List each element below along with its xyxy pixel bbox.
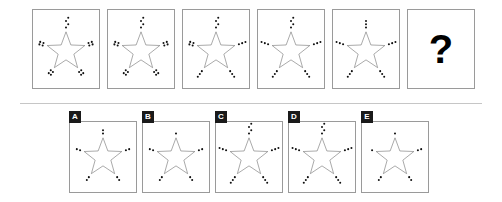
dot — [114, 41, 116, 43]
dot-cluster-upper-right — [198, 148, 203, 151]
dot — [307, 176, 309, 178]
dot — [91, 41, 93, 43]
dot — [116, 176, 118, 178]
dot-cluster-upper-right — [344, 147, 353, 151]
dot — [140, 27, 142, 29]
dot — [198, 149, 200, 151]
dot — [229, 70, 231, 72]
dot-cluster-lower-right — [116, 176, 120, 181]
dot — [261, 41, 263, 43]
dot — [335, 176, 337, 178]
dot-cluster-upper-left — [38, 41, 44, 47]
dot — [264, 179, 266, 181]
dot — [371, 149, 373, 151]
dot — [88, 176, 90, 178]
panel-3 — [182, 9, 250, 89]
dot — [67, 23, 69, 25]
dot — [201, 148, 203, 150]
dot — [378, 179, 380, 181]
star-outline — [347, 32, 385, 68]
dot — [125, 74, 127, 76]
dot — [420, 148, 422, 150]
dot-cluster-upper-left — [261, 41, 270, 45]
option-label-a: A — [69, 111, 81, 123]
question-mark: ? — [408, 10, 474, 88]
dot — [102, 129, 104, 131]
dot — [244, 41, 246, 43]
dot — [274, 148, 276, 150]
dot — [365, 20, 367, 22]
dot — [215, 20, 217, 22]
dot — [323, 123, 325, 125]
dot — [152, 149, 154, 151]
option-e[interactable]: E — [361, 121, 429, 193]
dot — [191, 179, 193, 181]
dot — [394, 41, 396, 43]
dot-cluster-upper-left — [219, 147, 228, 151]
dot — [410, 179, 412, 181]
dot — [381, 73, 383, 75]
dot-cluster-upper-left — [336, 41, 345, 45]
dot — [125, 149, 127, 151]
option-row: ABCDE — [69, 121, 429, 193]
dot — [155, 74, 157, 76]
dot — [149, 148, 151, 150]
dot — [337, 179, 339, 181]
dot — [277, 147, 279, 149]
dot — [347, 76, 349, 78]
dot — [342, 43, 344, 45]
dot — [197, 76, 199, 78]
dot — [266, 182, 268, 184]
dot — [117, 42, 119, 44]
star-outline — [230, 138, 268, 174]
star-outline — [272, 32, 310, 68]
dot-cluster-upper-right — [388, 41, 397, 45]
dot — [408, 176, 410, 178]
section-divider — [20, 103, 482, 104]
dot-cluster-lower-right — [229, 70, 235, 78]
dot — [306, 73, 308, 75]
dot-cluster-top — [102, 129, 104, 134]
option-a[interactable]: A — [69, 121, 137, 193]
option-b[interactable]: B — [142, 121, 210, 193]
dot-cluster-upper-left — [292, 147, 301, 151]
dot — [264, 42, 266, 44]
puzzle-root: ? ABCDE — [0, 0, 502, 202]
dot-cluster-lower-right — [408, 176, 412, 181]
dot — [321, 126, 323, 128]
dot — [225, 149, 227, 151]
dot-cluster-lower-left — [86, 176, 90, 181]
dot — [233, 76, 235, 78]
dot-cluster-top — [290, 17, 294, 29]
option-label-c: C — [215, 111, 227, 123]
dot — [125, 69, 127, 71]
dot — [192, 42, 194, 44]
dot-cluster-upper-right — [271, 147, 280, 151]
dot — [86, 179, 88, 181]
option-d[interactable]: D — [288, 121, 356, 193]
dot — [308, 76, 310, 78]
dot — [118, 179, 120, 181]
dot — [271, 149, 273, 151]
dot — [272, 76, 274, 78]
dot — [117, 44, 119, 46]
dot — [162, 42, 164, 44]
dot-cluster-lower-left — [272, 70, 278, 78]
option-c[interactable]: C — [215, 121, 283, 193]
dot — [217, 17, 219, 19]
dot — [290, 20, 292, 22]
dot-cluster-upper-right — [417, 148, 422, 151]
dot — [167, 43, 169, 45]
dot — [113, 43, 115, 45]
dot — [201, 70, 203, 72]
dot-cluster-top — [248, 123, 252, 135]
dot — [189, 41, 191, 43]
dot — [52, 71, 54, 73]
dot-cluster-lower-left — [48, 69, 54, 75]
dot — [274, 73, 276, 75]
dot — [157, 72, 159, 74]
dot — [142, 17, 144, 19]
dot-cluster-lower-right — [189, 176, 193, 181]
dot-cluster-lower-right — [153, 69, 159, 75]
dot — [295, 148, 297, 150]
